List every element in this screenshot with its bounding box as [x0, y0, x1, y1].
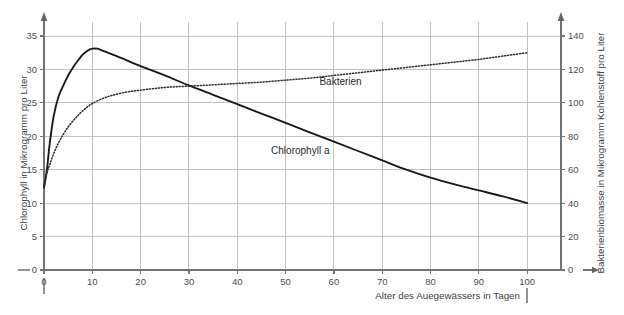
- x-axis-tick-label: 100: [519, 276, 535, 287]
- chart-svg: 05101520253035 020406080100120140 010203…: [0, 0, 624, 315]
- chart-container: 05101520253035 020406080100120140 010203…: [0, 0, 624, 315]
- x-axis-tick-label: 20: [135, 276, 146, 287]
- left-axis-arrow-icon: [41, 12, 48, 21]
- right-axis: 020406080100120140: [558, 12, 599, 275]
- x-axis-tick-label: 10: [87, 276, 98, 287]
- right-axis-tick-label: 0: [568, 264, 573, 275]
- x-axis-tick-label: 50: [280, 276, 291, 287]
- right-axis-tick-label: 100: [568, 97, 584, 108]
- right-axis-tick-label: 120: [568, 64, 584, 75]
- series-labels-group: Chlorophyll aBakterien: [271, 76, 362, 156]
- x-axis-tick-label: 80: [425, 276, 436, 287]
- right-axis-arrow-icon: [558, 12, 565, 21]
- right-axis-tick-label: 20: [568, 231, 579, 242]
- right-axis-tick-label: 140: [568, 30, 584, 41]
- series-label-chlorophyll-a: Chlorophyll a: [271, 145, 330, 156]
- x-axis-tick-label: 40: [232, 276, 243, 287]
- right-axis-tick-label: 40: [568, 198, 579, 209]
- left-axis-tick-label: 5: [32, 231, 37, 242]
- bottom-axis: 0102030405060708090100: [41, 270, 561, 287]
- x-axis-title: Alter des Auegewässers in Tagen: [375, 290, 520, 301]
- left-axis-tick-label: 0: [32, 264, 37, 275]
- series-label-bakterien: Bakterien: [319, 76, 361, 87]
- axis-titles-group: Chlorophyll in Mikrogramm pro LiterBakte…: [18, 32, 606, 303]
- x-axis-tick-label: 90: [474, 276, 485, 287]
- y-axis-title: Chlorophyll in Mikrogramm pro Liter: [18, 75, 29, 231]
- x-axis-tick-label: 70: [377, 276, 388, 287]
- right-axis-tick-label: 80: [568, 131, 579, 142]
- x-axis-tick-label: 60: [329, 276, 340, 287]
- x-axis-tick-label: 30: [184, 276, 195, 287]
- y2-axis-title: Bakterienbiomasse in Mikrogramm Kohlenst…: [595, 32, 606, 274]
- left-axis-tick-label: 30: [26, 64, 37, 75]
- x-axis-tick-label: 0: [41, 276, 46, 287]
- left-axis-tick-label: 35: [26, 30, 37, 41]
- right-axis-tick-label: 60: [568, 164, 579, 175]
